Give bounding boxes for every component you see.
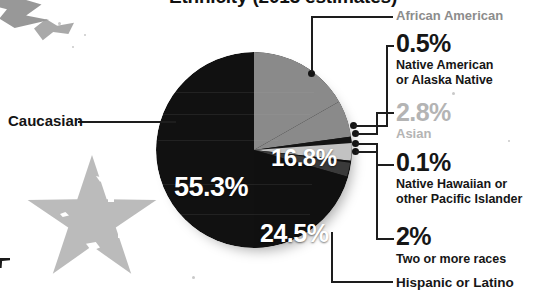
corner-tick-mark — [0, 258, 10, 268]
leader-line-caucasian — [78, 121, 176, 123]
label-native-hawaiian-line2: other Pacific Islander — [396, 192, 522, 207]
leader-line-asian-h1 — [356, 133, 376, 135]
value-asian: 2.8% — [396, 100, 451, 125]
pie-value-hispanic: 24.5% — [260, 219, 328, 248]
leader-line-african-american-h — [311, 16, 393, 18]
leader-line-native-american-h1 — [354, 125, 386, 127]
label-two-or-more: Two or more races — [396, 252, 506, 267]
leader-line-hispanic-v — [331, 232, 333, 282]
leader-line-two-or-more-h2 — [376, 238, 394, 240]
star-chip — [118, 232, 126, 238]
leader-line-hispanic-h — [331, 281, 393, 283]
star-watermark — [22, 155, 162, 287]
star-chip — [96, 176, 103, 182]
label-native-hawaiian: Native Hawaiian or other Pacific Islande… — [396, 177, 522, 206]
star-chip — [86, 242, 100, 251]
label-hispanic: Hispanic or Latino — [396, 275, 514, 290]
grunge-splash-secondary — [34, 18, 74, 44]
label-asian: Asian — [396, 126, 431, 141]
speck — [192, 276, 195, 279]
pie-value-african-american: 16.8% — [271, 144, 337, 172]
label-african-american: African American — [396, 8, 503, 23]
pie-chart: 55.3% 24.5% 16.8% — [156, 52, 360, 256]
leader-line-native-hawaiian-h1 — [356, 143, 376, 145]
pie-value-caucasian: 55.3% — [174, 172, 248, 203]
leader-line-two-or-more-h1 — [356, 151, 376, 153]
speck — [84, 34, 86, 36]
leader-line-two-or-more-v — [376, 151, 378, 239]
star-chip — [108, 198, 114, 202]
label-native-american: Native American or Alaska Native — [396, 58, 494, 87]
speck — [72, 46, 74, 48]
speck — [58, 22, 61, 25]
leader-line-asian-v — [376, 112, 378, 135]
label-native-american-line2: or Alaska Native — [396, 73, 494, 88]
label-caucasian: Caucasian — [8, 112, 83, 129]
label-native-american-line1: Native American — [396, 58, 494, 73]
grunge-splash-top-left — [0, 0, 78, 56]
leader-line-asian-h2 — [376, 112, 394, 114]
leader-line-native-hawaiian-h2 — [376, 164, 394, 166]
speck — [508, 140, 510, 142]
page-title: Ethnicity (2013 estimates) — [118, 0, 448, 8]
star-chip — [72, 192, 77, 197]
star-chip — [60, 212, 69, 217]
value-two-or-more: 2% — [396, 224, 431, 249]
leader-line-african-american-v — [311, 16, 313, 72]
value-native-american: 0.5% — [396, 31, 451, 56]
leader-line-native-american-h2 — [386, 45, 394, 47]
speck — [452, 92, 455, 95]
value-native-hawaiian: 0.1% — [396, 150, 451, 175]
infographic-root: Ethnicity (2013 estimates) — [0, 0, 554, 299]
leader-line-native-american-v — [386, 45, 388, 127]
label-native-hawaiian-line1: Native Hawaiian or — [396, 177, 522, 192]
